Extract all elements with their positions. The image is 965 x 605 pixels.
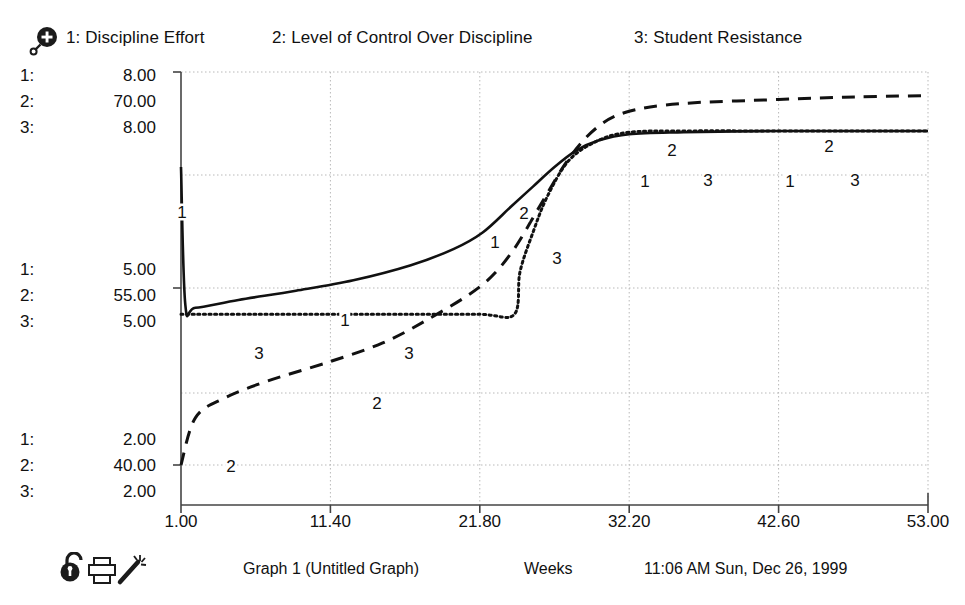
graph-title: Graph 1 (Untitled Graph) <box>243 560 419 578</box>
curve-marker-1: 1 <box>639 173 650 190</box>
y-scale-value: 2.00 <box>40 430 156 450</box>
curve-marker-1: 1 <box>784 173 795 190</box>
curve-marker-1: 1 <box>339 312 350 329</box>
y-scale-value: 40.00 <box>40 456 156 476</box>
y-scale-value: 55.00 <box>40 286 156 306</box>
y-scale-index: 3: <box>20 118 34 138</box>
unlock-padlock-icon <box>61 553 82 582</box>
x-tick-label: 32.20 <box>608 512 651 532</box>
axis-ticks <box>173 288 928 513</box>
y-scale-index: 2: <box>20 456 34 476</box>
curve-marker-2: 2 <box>518 205 529 222</box>
curve-marker-2: 2 <box>225 458 236 475</box>
timestamp: 11:06 AM Sun, Dec 26, 1999 <box>644 560 847 578</box>
x-tick-label: 1.00 <box>164 512 197 532</box>
y-scale-value: 5.00 <box>40 312 156 332</box>
curve-series-2 <box>181 96 928 465</box>
y-scale-index: 2: <box>20 286 34 306</box>
y-scale-index: 1: <box>20 430 34 450</box>
x-tick-label: 21.80 <box>459 512 502 532</box>
axes <box>173 72 928 505</box>
y-scale-index: 3: <box>20 312 34 332</box>
y-scale-index: 1: <box>20 260 34 280</box>
data-curves <box>181 96 928 465</box>
wand-icon <box>120 555 146 582</box>
y-scale-index: 3: <box>20 482 34 502</box>
curve-marker-2: 2 <box>666 142 677 159</box>
legend-item-1: 1: Discipline Effort <box>66 28 205 48</box>
curve-marker-3: 3 <box>551 250 562 267</box>
y-scale-value: 2.00 <box>40 482 156 502</box>
curve-marker-1: 1 <box>489 234 500 251</box>
x-tick-label: 11.40 <box>310 512 351 532</box>
curve-marker-1: 1 <box>176 204 187 221</box>
x-tick-label: 42.60 <box>757 512 800 532</box>
status-bar: Graph 1 (Untitled Graph) Weeks 11:06 AM … <box>0 552 965 592</box>
x-tick-label: 53.00 <box>907 512 950 532</box>
curve-marker-2: 2 <box>823 138 834 155</box>
curve-marker-2: 2 <box>371 395 382 412</box>
printer-icon <box>89 558 115 583</box>
curve-series-3 <box>181 131 928 318</box>
curve-series-1 <box>181 131 928 316</box>
y-scale-index: 2: <box>20 92 34 112</box>
y-scale-value: 5.00 <box>40 260 156 280</box>
legend-item-2: 2: Level of Control Over Discipline <box>272 28 533 48</box>
y-scale-index: 1: <box>20 66 34 86</box>
curve-marker-3: 3 <box>253 345 264 362</box>
magnifier-plus-icon[interactable] <box>28 26 62 56</box>
y-scale-value: 70.00 <box>40 92 156 112</box>
curve-marker-3: 3 <box>403 345 414 362</box>
y-scale-value: 8.00 <box>40 118 156 138</box>
status-bar-icons <box>58 552 153 588</box>
legend-item-3: 3: Student Resistance <box>634 28 802 48</box>
curve-marker-3: 3 <box>849 172 860 189</box>
gridlines <box>181 72 928 505</box>
y-scale-value: 8.00 <box>40 66 156 86</box>
legend: 1: Discipline Effort 2: Level of Control… <box>0 24 965 58</box>
curve-marker-3: 3 <box>702 172 713 189</box>
x-axis-units-label: Weeks <box>524 560 573 578</box>
